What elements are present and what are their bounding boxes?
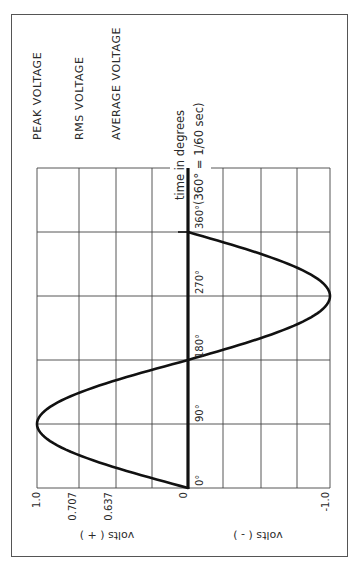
rms-voltage-label: RMS VOLTAGE xyxy=(73,57,86,141)
time-axis-note: (360° = 1/60 sec) xyxy=(192,103,206,206)
tick-volts-zero: 0 xyxy=(178,492,189,498)
volts-positive-label: volts ( + ) xyxy=(80,529,135,542)
peak-voltage-label: PEAK VOLTAGE xyxy=(31,52,44,140)
average-voltage-label: AVERAGE VOLTAGE xyxy=(110,27,123,140)
tick-volts-rms: 0.707 xyxy=(67,492,78,521)
time-axis-label: time in degrees xyxy=(173,110,187,200)
sine-wave-chart: PEAK VOLTAGE RMS VOLTAGE AVERAGE VOLTAGE… xyxy=(0,0,353,566)
tick-270-deg: 270° xyxy=(194,270,205,294)
tick-volts-average: 0.637 xyxy=(103,492,114,521)
tick-90-deg: 90° xyxy=(194,404,205,422)
tick-volts-peak: 1.0 xyxy=(31,492,42,508)
tick-360-deg: 360° xyxy=(194,205,205,229)
tick-volts-neg-peak: -1.0 xyxy=(320,492,331,512)
tick-0-deg: 0° xyxy=(194,475,205,486)
tick-180-deg: 180° xyxy=(194,334,205,358)
volts-negative-label: volts ( - ) xyxy=(233,529,282,542)
